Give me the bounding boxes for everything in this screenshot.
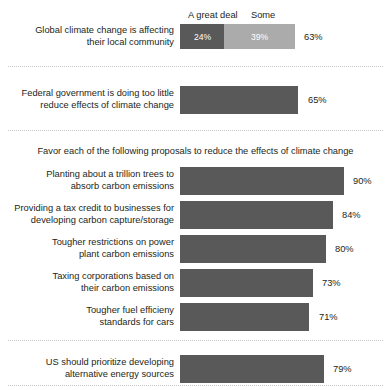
bar-total-trillion-trees: 90% [353,176,372,186]
bar-row-federal-government: Federal government is doing too little r… [0,86,391,114]
bar-track-local-community: 24% 39% 63% [180,24,391,49]
bar-value-a-great-deal: 24% [194,32,211,42]
bar-track-trillion-trees: 90% [180,167,391,195]
bar-track-fuel-efficiency: 71% [180,303,391,331]
legend-item-some: Some [251,10,275,20]
bar-track-federal-government: 65% [180,86,391,114]
bar-fill-taxing-corporations [180,269,313,297]
bar-value-some: 39% [251,32,268,42]
bar-fill-federal-government [180,86,298,114]
bar-total-local-community: 63% [304,32,323,42]
bar-total-power-plant: 80% [335,244,354,254]
section-divider-4 [8,385,383,386]
bar-total-alternative-energy: 79% [333,364,352,374]
bar-label-power-plant: Tougher restrictions on power plant carb… [0,237,180,260]
bar-label-trillion-trees: Planting about a trillion trees to absor… [0,169,180,192]
bar-fill-tax-credit [180,201,333,229]
bar-row-taxing-corporations: Taxing corporations based on their carbo… [0,269,391,297]
bar-row-local-community: Global climate change is affecting their… [0,24,391,49]
bar-label-taxing-corporations: Taxing corporations based on their carbo… [0,271,180,294]
bar-row-trillion-trees: Planting about a trillion trees to absor… [0,167,391,195]
bar-fill-alternative-energy [180,355,324,383]
bar-row-fuel-efficiency: Tougher fuel efficieny standards for car… [0,303,391,331]
poll-results-chart: A great deal Some Global climate change … [0,0,391,390]
section-divider-1 [8,66,383,67]
bar-track-tax-credit: 84% [180,201,391,229]
section-header-proposals: Favor each of the following proposals to… [0,146,391,156]
bar-label-local-community: Global climate change is affecting their… [0,25,180,48]
bar-track-power-plant: 80% [180,235,391,263]
bar-row-alternative-energy: US should prioritize developing alternat… [0,355,391,383]
bar-total-tax-credit: 84% [342,210,361,220]
legend-item-a-great-deal: A great deal [188,10,238,20]
bar-label-federal-government: Federal government is doing too little r… [0,88,180,111]
bar-row-power-plant: Tougher restrictions on power plant carb… [0,235,391,263]
bar-fill-fuel-efficiency [180,303,309,331]
bar-fill-trillion-trees [180,167,344,195]
bar-track-alternative-energy: 79% [180,355,391,383]
section-divider-2 [8,130,383,131]
bar-label-alternative-energy: US should prioritize developing alternat… [0,357,180,380]
bar-label-tax-credit: Providing a tax credit to businesses for… [0,203,180,226]
bar-total-federal-government: 65% [308,95,327,105]
bar-fill-power-plant [180,235,326,263]
bar-row-tax-credit: Providing a tax credit to businesses for… [0,201,391,229]
section-divider-3 [8,340,383,341]
bar-track-taxing-corporations: 73% [180,269,391,297]
bar-total-fuel-efficiency: 71% [319,312,338,322]
bar-label-fuel-efficiency: Tougher fuel efficieny standards for car… [0,305,180,328]
bar-total-taxing-corporations: 73% [322,278,341,288]
